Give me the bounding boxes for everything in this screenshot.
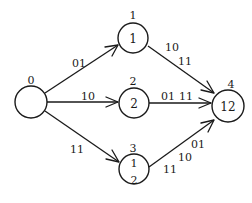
node-2: 2 2 xyxy=(119,75,149,118)
node-inner-text: 1 xyxy=(131,157,138,170)
edge-label: 01 xyxy=(161,90,175,103)
node-label: 1 xyxy=(130,9,137,22)
edge-label: 10 xyxy=(178,151,192,164)
node-label: 4 xyxy=(228,78,235,91)
state-diagram: 01 10 11 10 11 01 11 11 10 01 0 1 1 2 2 … xyxy=(0,0,252,203)
edge-label: 01 xyxy=(72,57,86,70)
edge-label: 11 xyxy=(179,90,193,103)
node-label: 3 xyxy=(130,142,137,155)
edge-label: 01 xyxy=(191,138,205,151)
edge-label: 11 xyxy=(178,55,192,68)
node-1: 1 1 xyxy=(118,9,148,53)
node-inner-text: 2 xyxy=(130,97,138,111)
node-inner-text: 12 xyxy=(220,100,235,114)
edge-label: 11 xyxy=(70,143,84,156)
node-label: 2 xyxy=(130,75,137,88)
edge-1-to-4 xyxy=(148,46,214,93)
node-inner-text: 2 xyxy=(131,174,138,187)
edge-label: 11 xyxy=(163,163,177,176)
edge-label: 10 xyxy=(81,90,95,103)
node-label: 0 xyxy=(28,74,35,87)
node-3: 3 1 2 xyxy=(119,142,149,187)
node-inner-text: 1 xyxy=(129,32,137,46)
node-0: 0 xyxy=(15,74,47,118)
edge-label: 10 xyxy=(165,41,179,54)
node-4: 4 12 xyxy=(212,78,244,122)
